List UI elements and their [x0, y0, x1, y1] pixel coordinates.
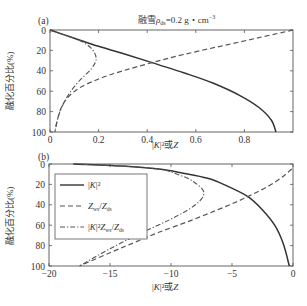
y-tick-label: 0 [41, 26, 46, 36]
y-tick-label: 20 [36, 180, 46, 190]
y-tick-label: 20 [37, 46, 47, 56]
x-tick-label: 0 [291, 269, 296, 279]
axis-ticks-a: 02040608010000.20.40.60.8 [32, 26, 293, 146]
x-tick-label: −10 [164, 269, 179, 279]
y-axis-label-a: 融化百分比(%) [4, 52, 15, 111]
y-tick-label: 80 [36, 241, 46, 251]
y-tick-label: 80 [37, 107, 47, 117]
x-axis-label-b: |K|²或Z [152, 281, 179, 292]
y-tick-label: 40 [36, 200, 46, 210]
y-tick-label: 40 [37, 66, 47, 76]
y-tick-label: 60 [36, 221, 46, 231]
series-line [50, 30, 96, 132]
x-tick-label: −5 [227, 269, 237, 279]
figure: (a) 融雪ρds=0.2 g・cm−3 02040608010000.20.4… [0, 0, 307, 306]
legend-item-k2: |K|² [88, 180, 101, 190]
panel-b: (b) 020406080100−20−15−10−50 |K|²或Z 融化百分… [4, 152, 296, 292]
legend: |K|² Zws/Zds |K|²Zws/Zds [55, 174, 147, 239]
x-tick-label: −20 [42, 269, 57, 279]
x-tick-label: −15 [103, 269, 118, 279]
series-line [50, 30, 276, 132]
y-tick-label: 100 [32, 128, 47, 138]
x-tick-label: 0.8 [238, 135, 250, 145]
x-tick-label: 0.2 [93, 135, 105, 145]
x-axis-label-a: |K|²或Z [152, 139, 179, 150]
chart-title: 融雪ρds=0.2 g・cm−3 [138, 14, 215, 26]
series-line [55, 30, 293, 132]
y-tick-label: 60 [37, 87, 47, 97]
y-axis-label-b: 融化百分比(%) [4, 187, 15, 246]
x-tick-label: 0 [48, 135, 53, 145]
curves-a [50, 30, 293, 132]
panel-a: (a) 融雪ρds=0.2 g・cm−3 02040608010000.20.4… [4, 14, 293, 150]
plot-frame-a [50, 30, 293, 132]
x-tick-label: 0.6 [190, 135, 202, 145]
y-tick-label: 0 [40, 160, 45, 170]
